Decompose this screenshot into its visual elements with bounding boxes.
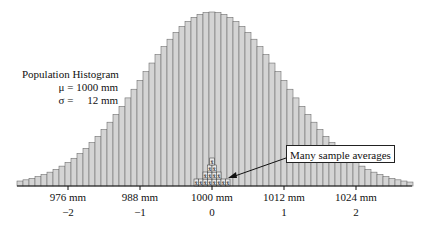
tick-label: 1000 mm0	[182, 191, 242, 219]
tick-label-z: 2	[326, 206, 386, 219]
tick-label-mm: 1024 mm	[326, 191, 386, 204]
tick-label: 976 mm−2	[38, 191, 98, 219]
histogram-bar	[161, 47, 167, 186]
histogram-bar	[215, 13, 221, 186]
histogram-bar	[203, 13, 209, 186]
histogram-bar	[35, 177, 41, 186]
histogram-bar	[155, 55, 161, 186]
histogram-bar	[41, 175, 47, 186]
histogram-bar	[377, 175, 383, 186]
tick-label-mm: 988 mm	[110, 191, 170, 204]
histogram-bar	[71, 158, 77, 186]
histogram-bar	[23, 180, 29, 186]
sample-average-glyph: x̄	[213, 173, 216, 179]
tick-label-z: −2	[38, 206, 98, 219]
tick-label-z: 1	[254, 206, 314, 219]
histogram-bar	[395, 180, 401, 186]
histogram-bar	[53, 169, 59, 186]
sample-average-glyph: x̄	[204, 173, 207, 179]
sample-average-glyph: x̄	[211, 159, 214, 165]
histogram-bar	[17, 181, 23, 186]
histogram-bar	[227, 17, 233, 186]
histogram-bar	[143, 72, 149, 186]
population-title: Population Histogram	[22, 68, 118, 81]
sample-average-glyph: x̄	[226, 180, 229, 186]
histogram-bar	[281, 80, 287, 186]
population-sd: σ = 12 mm	[22, 94, 118, 107]
sample-average-glyph: x̄	[213, 166, 216, 172]
histogram-bar	[401, 181, 407, 186]
histogram-bar	[245, 32, 251, 186]
histogram-bar	[365, 169, 371, 186]
histogram-bar	[179, 26, 185, 186]
sample-average-glyph: x̄	[199, 180, 202, 186]
tick-label-z: 0	[182, 206, 242, 219]
histogram-bar	[113, 114, 119, 186]
histogram-bar	[47, 172, 53, 186]
sample-average-glyph: x̄	[204, 180, 207, 186]
histogram-bar	[383, 177, 389, 186]
histogram-bar	[359, 166, 365, 186]
sample-average-glyph: x̄	[217, 180, 220, 186]
histogram-bar	[191, 17, 197, 186]
histogram-bar	[287, 89, 293, 186]
sample-average-glyph: x̄	[208, 166, 211, 172]
histogram-bar	[185, 21, 191, 186]
histogram-bar	[275, 72, 281, 186]
histogram-bar	[95, 136, 101, 186]
histogram-bar	[167, 39, 173, 186]
histogram-bar	[197, 14, 203, 186]
sample-average-glyph: x̄	[208, 173, 211, 179]
sample-average-glyph: x̄	[217, 173, 220, 179]
tick-label-mm: 976 mm	[38, 191, 98, 204]
histogram-bar	[353, 162, 359, 186]
histogram-bar	[137, 80, 143, 186]
histogram-bar	[221, 14, 227, 186]
histogram-bar	[119, 106, 125, 186]
histogram-bar	[257, 47, 263, 186]
sample-averages-callout: Many sample averages	[286, 145, 395, 163]
histogram-bar	[29, 178, 35, 186]
sample-average-glyph: x̄	[222, 180, 225, 186]
histogram-bar	[59, 166, 65, 186]
histogram-bar	[77, 154, 83, 186]
histogram-bar	[65, 162, 71, 186]
histogram-bar	[149, 63, 155, 186]
histogram-bar	[83, 148, 89, 186]
histogram-bar	[239, 26, 245, 186]
tick-label: 1024 mm2	[326, 191, 386, 219]
population-legend: Population Histogram μ = 1000 mm σ = 12 …	[22, 68, 118, 107]
histogram-bar	[293, 98, 299, 186]
tick-label-z: −1	[110, 206, 170, 219]
tick-label-mm: 1000 mm	[182, 191, 242, 204]
tick-label: 988 mm−1	[110, 191, 170, 219]
histogram-bar	[251, 39, 257, 186]
histogram-bar	[233, 21, 239, 186]
histogram-bar	[269, 63, 275, 186]
tick-label-mm: 1012 mm	[254, 191, 314, 204]
sample-average-glyph: x̄	[195, 180, 198, 186]
histogram-bar	[131, 89, 137, 186]
histogram-bar	[371, 172, 377, 186]
histogram-bar	[101, 130, 107, 186]
x-axis-ticks	[68, 186, 356, 190]
histogram-bar	[173, 32, 179, 186]
histogram-bar	[389, 178, 395, 186]
histogram-bar	[89, 143, 95, 186]
population-mean: μ = 1000 mm	[22, 81, 118, 94]
tick-label: 1012 mm1	[254, 191, 314, 219]
sample-average-glyph: x̄	[208, 180, 211, 186]
histogram-bar	[107, 122, 113, 186]
sample-average-glyph: x̄	[213, 180, 216, 186]
histogram-bar	[125, 98, 131, 186]
